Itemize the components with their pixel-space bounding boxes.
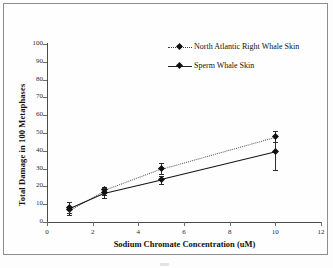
y-axis-tick-label-container: 60 <box>24 111 43 118</box>
x-axis-tick <box>184 222 185 226</box>
y-axis-tick-label-container: 40 <box>24 147 43 154</box>
error-bar-cap <box>273 142 278 143</box>
y-axis-tick <box>43 115 47 116</box>
series-line-segment <box>161 152 275 181</box>
chart-legend: North Atlantic Right Whale Skin Sperm Wh… <box>168 42 326 80</box>
y-axis-tick-label-container: 100 <box>24 40 43 47</box>
error-bar <box>275 142 276 170</box>
y-axis-tick-label: 50 <box>24 129 43 136</box>
x-axis-tick <box>275 222 276 226</box>
y-axis-tick-label-container: 0 <box>24 218 43 225</box>
y-axis-tick-label: 40 <box>24 147 43 154</box>
error-bar-cap <box>67 215 72 216</box>
data-point-marker <box>158 165 165 172</box>
y-axis-tick <box>43 204 47 205</box>
y-axis-tick <box>43 97 47 98</box>
series-line-segment <box>70 193 105 209</box>
y-axis-tick <box>43 44 47 45</box>
data-point-marker <box>158 176 165 183</box>
y-axis-tick-label-container: 80 <box>24 76 43 83</box>
y-axis-tick-label-container: 70 <box>24 93 43 100</box>
x-axis-tick-label: 2 <box>83 228 103 236</box>
y-axis-tick <box>43 151 47 152</box>
data-point-marker <box>272 133 279 140</box>
y-axis-tick <box>43 169 47 170</box>
y-axis-tick-label: 20 <box>24 182 43 189</box>
y-axis-tick <box>43 186 47 187</box>
error-bar-cap <box>67 213 72 214</box>
chart-page: Total Damage in 100 Metaphases Sodium Ch… <box>0 0 333 268</box>
error-bar-cap <box>102 198 107 199</box>
error-bar-cap <box>67 202 72 203</box>
error-bar-cap <box>273 170 278 171</box>
y-axis-tick-label-container: 30 <box>24 165 43 172</box>
error-bar-cap <box>159 184 164 185</box>
y-axis-tick-label: 30 <box>24 165 43 172</box>
scan-artifact <box>160 263 169 266</box>
y-axis-tick-label: 70 <box>24 93 43 100</box>
y-axis-tick-label: 80 <box>24 76 43 83</box>
data-point-marker <box>272 148 279 155</box>
y-axis-tick-label-container: 50 <box>24 129 43 136</box>
y-axis-tick-label: 0 <box>24 218 43 225</box>
plot-area: Total Damage in 100 Metaphases Sodium Ch… <box>0 0 333 268</box>
y-axis-tick <box>43 62 47 63</box>
x-axis-tick-label: 12 <box>311 228 331 236</box>
y-axis-tick-label: 10 <box>24 200 43 207</box>
x-axis-tick <box>47 222 48 226</box>
y-axis-line <box>47 43 48 223</box>
legend-item-label: Sperm Whale Skin <box>194 61 254 71</box>
x-axis-tick-label: 6 <box>174 228 194 236</box>
x-axis-tick-label: 4 <box>128 228 148 236</box>
series-line-segment <box>104 169 161 191</box>
y-axis-tick <box>43 133 47 134</box>
legend-item: Sperm Whale Skin <box>168 61 326 80</box>
x-axis-title: Sodium Chromate Concentration (uM) <box>47 239 322 249</box>
x-axis-tick <box>230 222 231 226</box>
y-axis-tick-label: 90 <box>24 58 43 65</box>
y-axis-tick-label-container: 20 <box>24 182 43 189</box>
y-axis-tick-label: 100 <box>24 40 43 47</box>
x-axis-tick <box>321 222 322 226</box>
y-axis-tick <box>43 80 47 81</box>
legend-item: North Atlantic Right Whale Skin <box>168 42 326 61</box>
x-axis-tick <box>138 222 139 226</box>
x-axis-tick-label: 8 <box>220 228 240 236</box>
y-axis-tick-label-container: 90 <box>24 58 43 65</box>
y-axis-tick-label: 60 <box>24 111 43 118</box>
legend-item-label: North Atlantic Right Whale Skin <box>194 42 299 52</box>
x-axis-tick-label: 10 <box>265 228 285 236</box>
x-axis-tick <box>93 222 94 226</box>
x-axis-tick-label: 0 <box>37 228 57 236</box>
y-axis-title-container: Total Damage in 100 Metaphases <box>8 40 22 226</box>
y-axis-tick-label-container: 10 <box>24 200 43 207</box>
